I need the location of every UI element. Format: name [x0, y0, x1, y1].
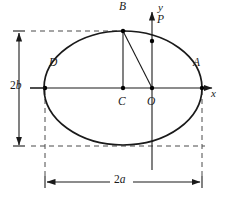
- chord-lines: [123, 31, 152, 88]
- point-A-marker: [200, 86, 204, 90]
- label-point-C: C: [118, 96, 126, 108]
- point-B-marker: [121, 29, 125, 33]
- label-dimension-2b: 2b: [10, 80, 22, 92]
- label-y-axis: y: [158, 2, 163, 13]
- label-dimension-2a: 2a: [114, 174, 126, 186]
- label-point-B: B: [119, 1, 126, 13]
- dimension-2a-letter: a: [120, 173, 126, 185]
- label-point-D: D: [49, 57, 57, 69]
- ellipse-figure: A B C D O P x y 2b 2a: [0, 0, 234, 201]
- segment-BO: [123, 31, 152, 88]
- figure-canvas: [0, 0, 234, 201]
- label-point-A: A: [193, 57, 200, 69]
- label-point-O: O: [147, 96, 155, 108]
- label-x-axis: x: [211, 88, 216, 99]
- point-O-marker: [150, 86, 154, 90]
- dimension-2b-letter: b: [16, 79, 22, 91]
- point-C-marker: [121, 86, 125, 90]
- label-point-P: P: [157, 14, 164, 26]
- point-P-marker: [150, 39, 154, 43]
